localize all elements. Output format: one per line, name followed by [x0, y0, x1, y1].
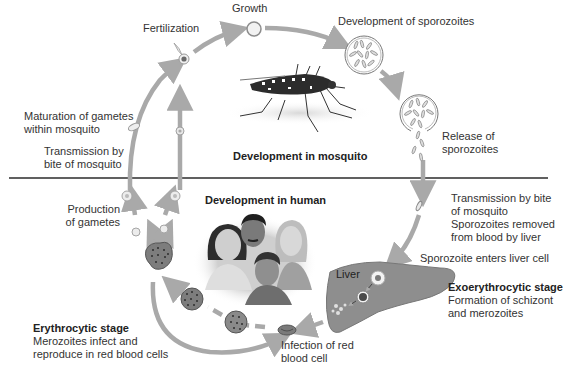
- label-transmission-by-bite-left: Transmission by bite of mosquito: [44, 145, 119, 171]
- malaria-life-cycle-diagram: Growth Fertilization Development of spor…: [0, 0, 563, 368]
- label-fertilization: Fertilization: [143, 22, 199, 35]
- label-infection-of-red-blood-cell: Infection of red blood cell: [281, 339, 354, 365]
- fertilization-zygote: [174, 43, 189, 64]
- group-of-people-illustration: [193, 214, 317, 308]
- growth-cell: [247, 22, 261, 36]
- label-maturation-of-gametes: Maturation of gametes within mosquito: [24, 110, 133, 136]
- oocyst-release: [400, 95, 438, 161]
- oocyst-development: [345, 36, 383, 74]
- label-transmission-by-bite-right: Transmission by bite of mosquito Sporozo…: [451, 192, 555, 244]
- label-sporozoite-enters-liver: Sporozoite enters liver cell: [420, 252, 549, 265]
- label-release-of-sporozoites: Release of sporozoites: [442, 130, 498, 156]
- red-blood-cell: [278, 325, 296, 335]
- infected-rbc-2: [225, 311, 247, 333]
- infected-rbc-1: [181, 288, 203, 310]
- mosquito-illustration: [225, 64, 375, 132]
- label-production-of-gametes: Production of gametes: [48, 203, 120, 229]
- label-exoerythrocytic-stage: Exoerythrocytic stage Formation of schiz…: [448, 281, 563, 320]
- heading-development-in-human: Development in human: [205, 194, 326, 207]
- heading-development-in-mosquito: Development in mosquito: [233, 150, 367, 163]
- gamete-cell-right-lower: [160, 225, 168, 233]
- gamete-cell-left-lower: [132, 228, 140, 236]
- ruptured-infected-rbc: [146, 242, 173, 269]
- label-growth: Growth: [232, 2, 267, 15]
- label-erythrocytic-stage: Erythrocytic stage Merozoites infect and…: [33, 322, 168, 361]
- label-development-of-sporozoites: Development of sporozoites: [338, 15, 474, 28]
- label-liver: Liver: [336, 268, 360, 281]
- sporozoite-icon: [415, 201, 423, 212]
